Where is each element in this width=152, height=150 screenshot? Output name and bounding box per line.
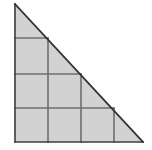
square-r1-c1 <box>15 38 48 74</box>
square-r3-c3 <box>81 108 114 142</box>
square-r2-c1 <box>15 74 48 108</box>
inscribed-squares-group <box>15 38 114 142</box>
figure-canvas <box>0 0 152 150</box>
square-r2-c2 <box>48 74 81 108</box>
square-r3-c1 <box>15 108 48 142</box>
triangle-staircase-diagram <box>0 0 152 150</box>
square-r3-c2 <box>48 108 81 142</box>
